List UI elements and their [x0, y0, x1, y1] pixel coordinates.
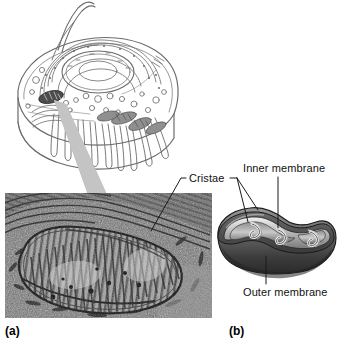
- label-inner-membrane: Inner membrane: [243, 162, 325, 175]
- mitochondrion-electron-micrograph: [5, 193, 212, 318]
- panel-label-a: (a): [5, 324, 20, 338]
- mitochondrion-figure: Cristae Inner membrane Outer membrane (a…: [0, 0, 342, 345]
- panel-label-b: (b): [229, 324, 244, 338]
- mitochondrion-3d-cutaway-diagram: [212, 186, 338, 288]
- label-outer-membrane: Outer membrane: [243, 286, 328, 299]
- label-cristae: Cristae: [189, 172, 225, 185]
